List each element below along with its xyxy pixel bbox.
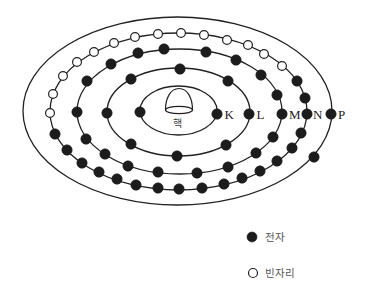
legend-label-electron: 전자 [265, 231, 285, 243]
shell-l-electron [126, 139, 136, 149]
shell-n-electron [50, 129, 60, 139]
shell-label-k: K [225, 107, 235, 122]
shell-n-vacancy [260, 50, 269, 59]
shell-n-vacancy [49, 90, 58, 99]
shell-p-electron [309, 152, 319, 162]
shell-m-electron [106, 59, 116, 69]
shell-n-electron [300, 93, 310, 103]
shell-m-electron [100, 149, 110, 159]
open-circle-icon [249, 269, 258, 278]
shell-label-l: L [257, 107, 265, 122]
shell-m-electron [277, 109, 287, 119]
shell-l-electron [172, 151, 182, 161]
shell-m-electron [192, 168, 202, 178]
shell-l-electron [244, 109, 254, 119]
shell-n-vacancy [131, 33, 140, 42]
shell-m-electron [272, 90, 282, 100]
legend-item-electron: 전자 [247, 231, 285, 243]
shell-m-electron [256, 70, 266, 80]
shell-p-electron [326, 109, 336, 119]
shell-l-electron [175, 64, 185, 74]
legend: 전자 빈자리 [247, 231, 295, 279]
filled-circle-icon [247, 232, 257, 242]
shell-n-vacancy [177, 29, 186, 38]
shell-n-electron [296, 128, 306, 138]
shell-m-electron [123, 161, 133, 171]
shell-m-electron [201, 47, 211, 57]
shell-n-vacancy [278, 62, 287, 71]
shell-n-electron [219, 179, 229, 189]
shell-label-n: N [313, 107, 323, 122]
shell-m-electron [82, 76, 92, 86]
nucleus: 핵 [166, 89, 193, 130]
shell-n-vacancy [110, 39, 119, 48]
shell-m-electron [268, 132, 278, 142]
shell-l-electron [102, 108, 112, 118]
shell-n-vacancy [244, 41, 253, 50]
shell-l-electron [221, 140, 231, 150]
shell-m-electron [231, 55, 241, 65]
shell-n-electron [287, 143, 297, 153]
shell-n-vacancy [154, 30, 163, 39]
atom-shell-diagram: 핵 K L M N P 전자 빈자리 [0, 0, 367, 300]
shell-n-electron [94, 167, 104, 177]
shell-m-electron [251, 148, 261, 158]
shell-n-vacancy [59, 72, 68, 81]
nucleus-label: 핵 [173, 118, 182, 129]
legend-label-vacancy: 빈자리 [265, 267, 295, 279]
shell-n-electron [255, 166, 265, 176]
shell-label-p: P [338, 107, 345, 122]
shell-m-electron [153, 167, 163, 177]
shell-n-vacancy [46, 109, 55, 118]
shell-l-electron [126, 74, 136, 84]
shell-m-electron [81, 134, 91, 144]
shell-n-electron [77, 158, 87, 168]
shell-n-electron [237, 173, 247, 183]
legend-item-vacancy: 빈자리 [249, 267, 296, 279]
shell-n-electron [272, 156, 282, 166]
shell-m-electron [72, 107, 82, 117]
shell-n-vacancy [223, 36, 232, 45]
nucleus-base [166, 106, 193, 113]
shell-n-electron [131, 180, 141, 190]
shell-m-electron [133, 48, 143, 58]
shell-k-electron [212, 109, 222, 119]
shell-n-vacancy [73, 58, 82, 67]
shell-n-electron [197, 183, 207, 193]
shell-n-electron [292, 76, 302, 86]
shell-m-electron [159, 44, 169, 54]
shell-n-electron [174, 184, 184, 194]
shell-n-electron [302, 109, 312, 119]
shell-n-electron [153, 183, 163, 193]
shell-label-m: M [289, 107, 301, 122]
shell-l-electron [223, 76, 233, 86]
shell-n-vacancy [200, 31, 209, 40]
shell-k-electron [135, 107, 145, 117]
shell-n-electron [112, 174, 122, 184]
shell-n-electron [62, 145, 72, 155]
shell-n-vacancy [90, 48, 99, 57]
shell-m-electron [223, 162, 233, 172]
